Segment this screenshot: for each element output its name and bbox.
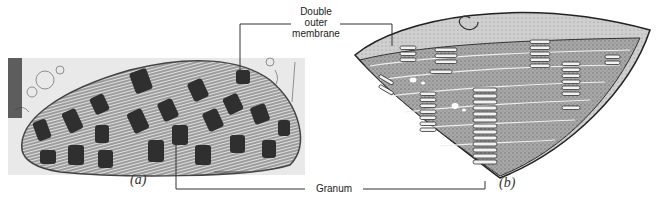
micrograph-panel-a <box>8 58 305 176</box>
label-granum: Granum <box>307 183 361 194</box>
label-line-3: membrane <box>288 28 344 39</box>
panel-label-a: (a) <box>130 172 146 188</box>
panel-label-b: (b) <box>499 175 515 191</box>
granum-leader-right <box>363 181 485 189</box>
illustration-panel-b <box>355 13 650 178</box>
label-line-2: outer <box>288 17 344 28</box>
label-double-outer-membrane: Double outer membrane <box>288 6 344 39</box>
label-line-1: Double <box>288 6 344 17</box>
chloroplast-figure: Double outer membrane Granum (a) (b) <box>0 0 663 200</box>
